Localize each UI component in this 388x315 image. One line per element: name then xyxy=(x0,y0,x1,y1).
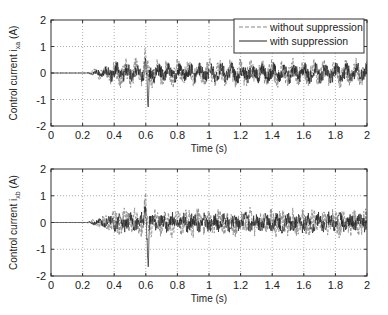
x-tick-label: 1.4 xyxy=(265,279,280,291)
figure: 00.20.40.60.811.21.41.61.82210-1-2Time (… xyxy=(0,0,388,315)
x-tick-label: 0.4 xyxy=(107,279,122,291)
x-tick-label: 0.2 xyxy=(75,129,90,141)
y-tick-label: 2 xyxy=(40,163,46,175)
x-tick-label: 0.4 xyxy=(107,129,122,141)
x-tick-label: 0.8 xyxy=(170,129,185,141)
y-tick-label: 0 xyxy=(40,67,46,79)
x-tick-label: 1.6 xyxy=(296,129,311,141)
y-tick-label: 2 xyxy=(40,14,46,26)
x-tick-label: 1 xyxy=(206,279,212,291)
legend-entry: without suppression xyxy=(269,21,363,33)
y-axis-label: Control current ixa(A) xyxy=(8,26,21,121)
x-tick-label: 1.2 xyxy=(233,279,248,291)
y-tick-label: 1 xyxy=(40,41,46,53)
y-tick-label: 1 xyxy=(40,190,46,202)
legend: without suppressionwith suppression xyxy=(234,19,364,53)
y-tick-label: -2 xyxy=(36,120,46,132)
x-tick-label: 1 xyxy=(206,129,212,141)
y-tick-label: 0 xyxy=(40,217,46,229)
x-tick-label: 0.2 xyxy=(75,279,90,291)
x-tick-label: 0.6 xyxy=(138,129,153,141)
y-tick-label: -1 xyxy=(36,243,46,255)
chart-panel-1: 00.20.40.60.811.21.41.61.82210-1-2Time (… xyxy=(8,14,370,154)
legend-entry: with suppression xyxy=(269,35,348,47)
chart-panel-2: 00.20.40.60.811.21.41.61.82210-1-2Time (… xyxy=(8,163,370,304)
x-tick-label: 0 xyxy=(48,279,54,291)
x-tick-label: 1.2 xyxy=(233,129,248,141)
x-tick-label: 0 xyxy=(48,129,54,141)
y-tick-label: -1 xyxy=(36,94,46,106)
y-tick-label: -2 xyxy=(36,270,46,282)
x-tick-label: 1.8 xyxy=(328,279,343,291)
x-axis-label: Time (s) xyxy=(191,293,227,304)
x-tick-label: 0.8 xyxy=(170,279,185,291)
x-tick-label: 0.6 xyxy=(138,279,153,291)
x-tick-label: 1.4 xyxy=(265,129,280,141)
x-tick-label: 2 xyxy=(364,279,370,291)
x-tick-label: 2 xyxy=(364,129,370,141)
x-tick-label: 1.6 xyxy=(296,279,311,291)
x-tick-label: 1.8 xyxy=(328,129,343,141)
y-axis-label: Control current ixb(A) xyxy=(8,175,21,270)
x-axis-label: Time (s) xyxy=(191,143,227,154)
